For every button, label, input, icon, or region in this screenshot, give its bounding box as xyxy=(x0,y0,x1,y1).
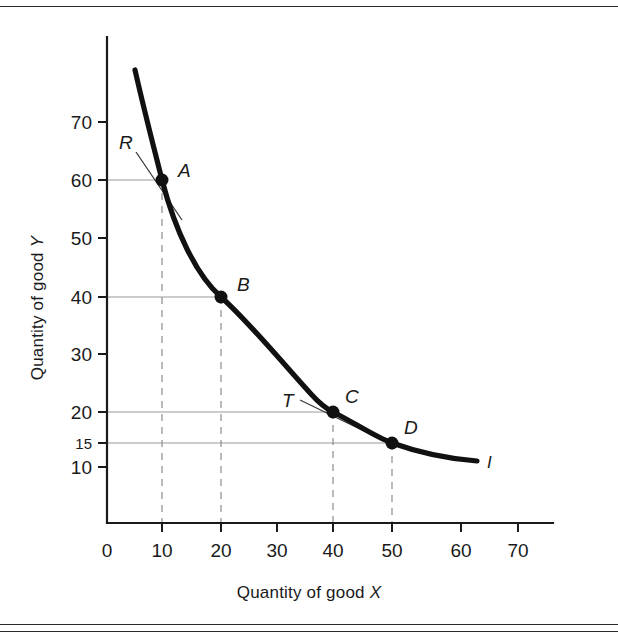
axes xyxy=(107,37,553,523)
y-axis-tick-labels: 70 60 50 40 30 20 15 10 xyxy=(71,112,92,478)
x-tick-label-20: 20 xyxy=(210,540,231,561)
x-tick-label-50: 50 xyxy=(381,540,402,561)
plot-annotations: A B C D R T I xyxy=(119,132,492,472)
y-tick-label-50: 50 xyxy=(71,228,92,249)
x-tick-label-60: 60 xyxy=(450,540,471,561)
data-point-A xyxy=(156,174,169,187)
x-tick-label-40: 40 xyxy=(322,540,343,561)
x-tick-label-10: 10 xyxy=(151,540,172,561)
data-point-B xyxy=(215,291,228,304)
data-points xyxy=(156,174,399,450)
x-axis-tick-labels: 0 10 20 30 40 50 60 70 xyxy=(102,540,529,561)
y-tick-label-40: 40 xyxy=(71,287,92,308)
y-tick-label-15: 15 xyxy=(75,435,92,452)
label-point-C: C xyxy=(345,386,359,407)
label-point-A: A xyxy=(177,160,191,181)
y-axis-ticks xyxy=(98,122,107,467)
x-axis-title-variable: X xyxy=(370,583,382,602)
x-tick-label-70: 70 xyxy=(507,540,528,561)
data-point-C xyxy=(327,406,340,419)
label-curve-I: I xyxy=(487,453,492,472)
data-point-D xyxy=(386,437,399,450)
tangent-lines xyxy=(136,152,366,432)
y-tick-label-30: 30 xyxy=(71,344,92,365)
y-tick-label-60: 60 xyxy=(71,170,92,191)
y-tick-label-20: 20 xyxy=(71,402,92,423)
label-point-B: B xyxy=(237,274,250,295)
figure-container: 70 60 50 40 30 20 15 10 0 10 20 30 40 50… xyxy=(0,0,618,642)
x-axis-title: Quantity of good X xyxy=(0,583,618,603)
label-tangent-T: T xyxy=(282,390,295,411)
label-point-D: D xyxy=(404,417,418,438)
x-axis-title-text: Quantity of good xyxy=(237,583,370,602)
x-tick-label-30: 30 xyxy=(266,540,287,561)
y-axis-title: Quantity of good Y xyxy=(28,193,48,423)
x-axis-ticks xyxy=(162,523,518,532)
vertical-dashed-lines xyxy=(162,180,392,523)
y-tick-label-70: 70 xyxy=(71,112,92,133)
y-axis-title-text: Quantity of good xyxy=(28,247,47,380)
label-tangent-R: R xyxy=(119,132,133,153)
x-tick-label-0: 0 xyxy=(102,540,113,561)
y-tick-label-10: 10 xyxy=(71,457,92,478)
y-axis-title-variable: Y xyxy=(28,236,47,248)
indifference-curve-plot: 70 60 50 40 30 20 15 10 0 10 20 30 40 50… xyxy=(0,0,618,642)
